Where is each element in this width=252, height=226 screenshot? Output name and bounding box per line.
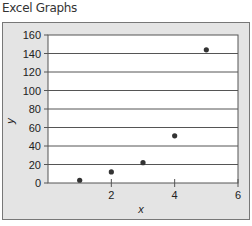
x-axis-label: x bbox=[137, 203, 144, 215]
y-tick-label: 0 bbox=[35, 177, 41, 189]
data-point bbox=[77, 178, 82, 183]
y-tick-label: 120 bbox=[23, 66, 41, 78]
x-tick-label: 2 bbox=[108, 189, 114, 201]
x-tick-label: 6 bbox=[235, 189, 241, 201]
data-point bbox=[109, 169, 114, 174]
y-tick-label: 140 bbox=[23, 48, 41, 60]
x-tick-label: 4 bbox=[172, 189, 178, 201]
y-tick-label: 60 bbox=[29, 122, 41, 134]
scatter-chart: 020406080100120140160246xy bbox=[0, 0, 252, 226]
y-tick-label: 80 bbox=[29, 103, 41, 115]
y-tick-label: 100 bbox=[23, 85, 41, 97]
y-tick-label: 40 bbox=[29, 140, 41, 152]
data-point bbox=[204, 47, 209, 52]
data-point bbox=[140, 160, 145, 165]
y-tick-label: 160 bbox=[23, 29, 41, 41]
y-tick-label: 20 bbox=[29, 159, 41, 171]
y-axis-label: y bbox=[4, 117, 16, 125]
data-point bbox=[172, 133, 177, 138]
